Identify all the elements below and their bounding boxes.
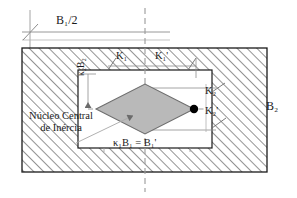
label-k1-left-text: K₁ (116, 50, 127, 61)
label-b2: B₂ (266, 100, 278, 112)
label-b2-text: B₂ (266, 99, 278, 113)
label-b1-half: B₁/2 (56, 14, 78, 26)
diagram-canvas: B₁/2 K₁ K₁' K₂ K₂' B₂ κ₂B₂ κ₁B₁ = B₁' Nú… (0, 0, 297, 198)
label-k1-left: K₁ (116, 51, 127, 62)
label-b1-half-text: B₁/2 (56, 13, 78, 27)
label-kappa2-b2-text: κ₂B₂ (76, 58, 86, 76)
load-point-marker (190, 105, 198, 113)
label-k1-right-text: K₁' (155, 50, 168, 61)
label-kappa2-b2: κ₂B₂ (77, 58, 87, 76)
label-k1-right: K₁' (155, 51, 168, 62)
b1-half-dimension-group (22, 10, 170, 48)
label-kappa1-b1-equation: κ₁B₁ = B₁' (113, 138, 156, 149)
structural-section-diagram (0, 0, 297, 198)
label-k2-lower-text: K₂' (205, 105, 218, 116)
label-kappa1-b1-equation-text: κ₁B₁ = B₁' (113, 137, 156, 148)
label-nucleo-line2: de Inércia (40, 122, 82, 133)
label-nucleo-line1: Núcleo Central (29, 110, 93, 121)
label-k2-upper: K₂ (205, 86, 216, 97)
label-nucleo-central-de-inercia: Núcleo Central de Inércia (18, 110, 104, 134)
label-k2-upper-text: K₂ (205, 85, 216, 96)
label-k2-lower: K₂' (205, 106, 218, 117)
